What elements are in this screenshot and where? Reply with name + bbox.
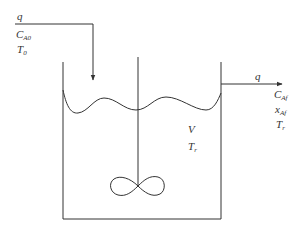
liquid-surface bbox=[63, 90, 221, 113]
vessel-temperature-label: Tr bbox=[188, 141, 197, 154]
outlet-temperature-subscript: r bbox=[282, 124, 285, 132]
outlet-flow-label: q bbox=[255, 71, 261, 82]
inlet-concentration-label: CA0 bbox=[16, 29, 31, 42]
vessel-volume-label: V bbox=[188, 124, 195, 135]
impeller bbox=[111, 177, 165, 196]
inlet-flow-symbol: q bbox=[17, 10, 23, 22]
outlet-temperature-label: Tr bbox=[276, 119, 285, 132]
outlet-conversion-subscript: Af bbox=[280, 109, 286, 117]
inlet-temperature-label: T0 bbox=[17, 44, 27, 57]
inlet-concentration-subscript: A0 bbox=[23, 34, 31, 42]
inlet-temperature-subscript: 0 bbox=[23, 49, 27, 57]
vessel-volume-symbol: V bbox=[188, 123, 195, 135]
outlet-flow-symbol: q bbox=[255, 70, 261, 82]
outlet-concentration-label: CAf bbox=[274, 89, 288, 102]
outlet-concentration-subscript: Af bbox=[281, 94, 287, 102]
inlet-flow-label: q bbox=[17, 11, 23, 22]
outlet-conversion-label: xAf bbox=[275, 104, 286, 117]
cstr-diagram bbox=[0, 0, 298, 230]
vessel-walls bbox=[63, 62, 221, 219]
vessel-temperature-subscript: r bbox=[194, 146, 197, 154]
